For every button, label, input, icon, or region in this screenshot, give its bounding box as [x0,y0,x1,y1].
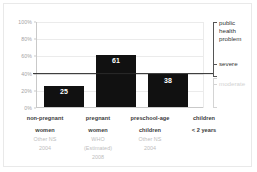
bar-preschool-age-children[interactable]: 38 [148,74,188,107]
x-axis-line [36,107,204,108]
category-source-line2: (Estimated) [71,145,125,153]
category-name-line1: non-pregnant [27,115,64,121]
bar-non-pregnant-women[interactable]: 25 [44,86,84,108]
category-name-line1: children [193,115,215,121]
plot-right-edge [203,22,204,108]
bar-pregnant-women[interactable]: 61 [96,55,136,108]
tick-severe [213,64,217,65]
y-axis-line [36,22,37,108]
category-name-line2: < 2 years [192,127,217,133]
y-tick-mark-20 [34,90,37,91]
category-source-line1: Other NS [18,136,72,144]
category-source-line1: Other NS [122,136,178,144]
category-name-line1: preschool-age [131,115,170,121]
y-tick-mark-60 [34,56,37,57]
category-name-line2: women [35,127,55,133]
category-label-pregnant-women: pregnant women WHO (Estimated) 2008 [71,111,125,162]
tick-moderate [213,84,217,85]
y-tick-mark-80 [34,39,37,40]
category-label-children-under-2-years: children < 2 years [177,111,231,135]
plot-area: 100% 80% 60% 40% 20% 0% 25 61 38 [36,22,204,108]
category-label-preschool-age-children: preschool-age children Other NS 2004 [122,111,178,153]
bar-value-label: 61 [96,57,136,64]
gridline-80 [36,39,204,40]
y-tick-label-80: 80% [21,36,32,42]
bracket-public-health-problem [213,22,217,77]
category-source-line3: 2008 [71,154,125,162]
annotation-severe: severe [219,60,238,67]
bracket-moderate [213,78,217,108]
chart-frame: 100% 80% 60% 40% 20% 0% 25 61 38 non-pre… [3,3,252,167]
y-tick-label-20: 20% [21,88,32,94]
category-source-line2: 2004 [122,145,178,153]
gridline-100 [36,22,204,23]
annotation-public-health-problem: public health problem [219,19,241,44]
category-name-line1: pregnant [86,115,110,121]
category-source-line1: WHO [71,136,125,144]
category-name-line2: women [88,127,108,133]
category-source-line2: 2004 [18,145,72,153]
y-tick-label-40: 40% [21,71,32,77]
category-name-line2: children [139,127,161,133]
category-label-non-pregnant-women: non-pregnant women Other NS 2004 [18,111,72,153]
y-tick-mark-0 [34,108,37,109]
bar-value-label: 38 [148,77,188,84]
bar-value-label: 25 [44,88,84,95]
y-tick-label-60: 60% [21,53,32,59]
y-tick-label-100: 100% [18,19,32,25]
annotation-moderate: moderate [219,80,245,87]
y-tick-mark-100 [34,22,37,23]
threshold-line-40-percent [33,73,213,75]
